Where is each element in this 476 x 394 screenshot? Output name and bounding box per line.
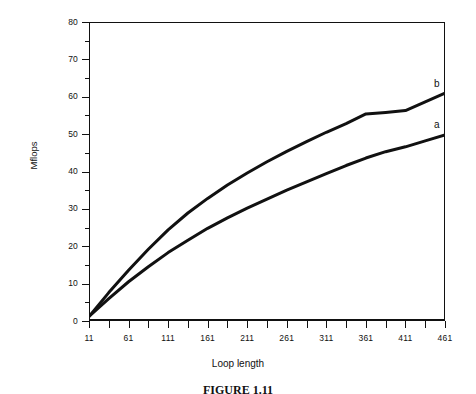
x-tick-major [129, 321, 130, 328]
x-tick-minor [267, 321, 268, 328]
x-tick-minor [386, 321, 387, 328]
x-tick-label: 361 [349, 333, 383, 343]
y-axis-labels: 01020304050607080 [50, 22, 78, 321]
x-tick-label: 211 [230, 333, 264, 343]
y-tick-label: 40 [52, 167, 78, 176]
x-axis-title: Loop length [0, 358, 476, 369]
x-tick-label: 311 [309, 333, 343, 343]
figure-caption: FIGURE 1.11 [0, 384, 476, 394]
x-tick-major [168, 321, 169, 328]
x-axis-labels: 1161111161211261311361411461 [89, 333, 445, 345]
x-tick-minor [425, 321, 426, 328]
x-tick-minor [346, 321, 347, 328]
x-tick-minor [148, 321, 149, 328]
x-tick-major [247, 321, 248, 328]
x-tick-major [366, 321, 367, 328]
x-tick-label: 111 [151, 333, 185, 343]
x-tick-label: 411 [388, 333, 422, 343]
x-tick-major [89, 321, 90, 328]
x-tick-minor [109, 321, 110, 328]
x-tick-major [326, 321, 327, 328]
plot-area [89, 22, 445, 321]
y-tick-label: 0 [52, 317, 78, 326]
series-line-b [89, 93, 445, 317]
x-tick-minor [227, 321, 228, 328]
figure-root: 01020304050607080 Mflops 116111116121126… [0, 0, 476, 394]
y-tick-label: 70 [52, 55, 78, 64]
x-tick-label: 461 [428, 333, 462, 343]
y-tick-label: 80 [52, 18, 78, 27]
y-tick-label: 50 [52, 130, 78, 139]
y-axis-title: Mflops [28, 121, 39, 191]
y-tick-label: 30 [52, 204, 78, 213]
x-tick-label: 61 [112, 333, 146, 343]
y-tick-label: 20 [52, 242, 78, 251]
series-label-a: a [434, 120, 440, 130]
x-tick-major [405, 321, 406, 328]
x-axis-ticks [89, 321, 445, 329]
x-tick-minor [307, 321, 308, 328]
x-tick-major [287, 321, 288, 328]
x-tick-major [445, 321, 446, 328]
x-tick-label: 261 [270, 333, 304, 343]
y-tick-label: 60 [52, 92, 78, 101]
x-tick-label: 161 [191, 333, 225, 343]
y-tick-label: 10 [52, 279, 78, 288]
x-tick-major [208, 321, 209, 328]
x-tick-minor [188, 321, 189, 328]
series-label-b: b [434, 79, 440, 89]
x-tick-label: 11 [72, 333, 106, 343]
